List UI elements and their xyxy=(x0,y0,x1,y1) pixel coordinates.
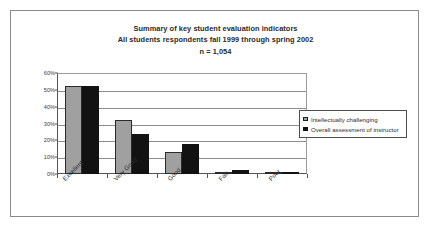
bar-group-excellent xyxy=(65,73,99,174)
chart-subtitle: All students respondents fall 1999 throu… xyxy=(11,35,420,46)
bar-group-good xyxy=(165,73,199,174)
bar-very-good-overall-assessment xyxy=(132,134,149,174)
bar-excellent-overall-assessment xyxy=(82,86,99,174)
bar-group-fair xyxy=(215,73,249,174)
series-2-swatch-icon xyxy=(303,127,308,132)
chart-legend: Intellectually challenging Overall asses… xyxy=(299,110,407,138)
chart-title-block: Summary of key student evaluation indica… xyxy=(11,24,420,57)
plot-wrapper: 0% 10% 20% 30% 40% 50% 60% xyxy=(37,64,312,174)
bar-good-overall-assessment xyxy=(182,144,199,174)
legend-label-series-2: Overall assessment of instructor xyxy=(311,126,399,133)
series-1-swatch-icon xyxy=(303,117,308,122)
bars-layer xyxy=(57,73,307,174)
chart-sample-size-annotation: n = 1,054 xyxy=(11,47,420,58)
bar-group-poor xyxy=(265,73,299,174)
legend-item-intellectually-challenging: Intellectually challenging xyxy=(303,114,402,124)
chart-title: Summary of key student evaluation indica… xyxy=(11,24,420,35)
x-axis-labels: Excellent Very Good Good Fair Poor xyxy=(57,177,312,225)
chart-screenshot: Summary of key student evaluation indica… xyxy=(0,0,434,233)
legend-item-overall-assessment-of-instructor: Overall assessment of instructor xyxy=(303,124,402,134)
chart-outer-frame: Summary of key student evaluation indica… xyxy=(10,10,419,217)
legend-label-series-1: Intellectually challenging xyxy=(311,116,378,123)
